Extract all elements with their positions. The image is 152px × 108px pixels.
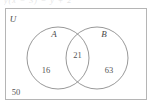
region-count-outside: 50	[12, 87, 21, 97]
set-a-label: A	[50, 29, 57, 39]
universal-set-label: U	[10, 14, 17, 24]
venn-diagram-figure: y(x − 3) = y + 2 U A B 16 21 63 50	[0, 0, 152, 108]
venn-diagram-canvas: U A B 16 21 63 50	[0, 0, 152, 108]
region-count-intersection: 21	[73, 50, 82, 60]
region-count-b-only: 63	[105, 65, 114, 75]
region-count-a-only: 16	[42, 65, 51, 75]
set-b-label: B	[101, 29, 107, 39]
